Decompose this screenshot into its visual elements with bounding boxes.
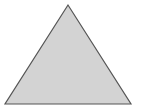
triangle-shape: [5, 5, 131, 104]
triangle-figure: [0, 0, 141, 111]
diagram-canvas: [0, 0, 141, 111]
